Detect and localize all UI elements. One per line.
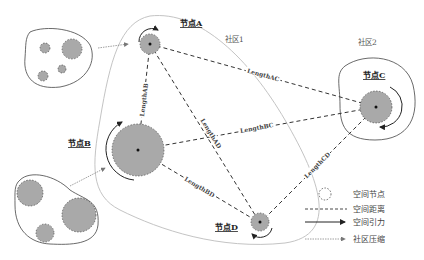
- edge-ac-label: LengthAC: [246, 67, 280, 84]
- node-c: [360, 87, 402, 127]
- edge-bc-label: LengthBC: [240, 121, 275, 135]
- legend-compression-label: 社区压缩: [353, 234, 385, 244]
- edge-bd-label-group: LengthBD: [182, 174, 217, 199]
- edge-ad-label: LengthAD: [199, 117, 223, 150]
- node-d: [251, 213, 272, 237]
- node-a-label: 节点A: [180, 18, 203, 28]
- node-b-label: 节点B: [68, 138, 91, 148]
- node-d-label: 节点D: [215, 222, 238, 232]
- community-2-label: 社区2: [358, 37, 377, 47]
- cluster-top-left: [25, 28, 92, 87]
- edge-ab-label: LengthAB: [138, 83, 150, 117]
- edge-cd-label: LengthCD: [303, 151, 332, 180]
- legend-node-icon: [319, 188, 331, 200]
- edge-cd-label-group: LengthCD: [302, 150, 333, 181]
- edge-bd-label: LengthBD: [183, 175, 216, 199]
- community-1-label: 社区1: [225, 34, 244, 44]
- edge-bc-label-group: LengthBC: [238, 121, 275, 135]
- node-a: [139, 29, 160, 54]
- legend-distance-label: 空间距离: [353, 204, 385, 214]
- community-diagram: 节点A 节点B 节点C 节点D 社区1 社区2 LengthAB LengthA…: [0, 0, 424, 260]
- cluster-bottom-left: [15, 175, 98, 245]
- legend-node-label: 空间节点: [353, 189, 385, 199]
- edge-ad-label-group: LengthAD: [198, 116, 224, 151]
- legend: 空间节点 空间距离 空间引力 社区压缩: [305, 188, 385, 244]
- legend-attraction-label: 空间引力: [353, 217, 385, 227]
- edge-ab-label-group: LengthAB: [138, 82, 150, 119]
- compression-arrow-a: [98, 44, 128, 48]
- node-c-label: 节点C: [363, 70, 385, 80]
- edge-ad: [150, 44, 260, 223]
- edge-ac-label-group: LengthAC: [245, 66, 282, 83]
- compression-arrow-b: [70, 168, 105, 186]
- node-b: [106, 122, 164, 180]
